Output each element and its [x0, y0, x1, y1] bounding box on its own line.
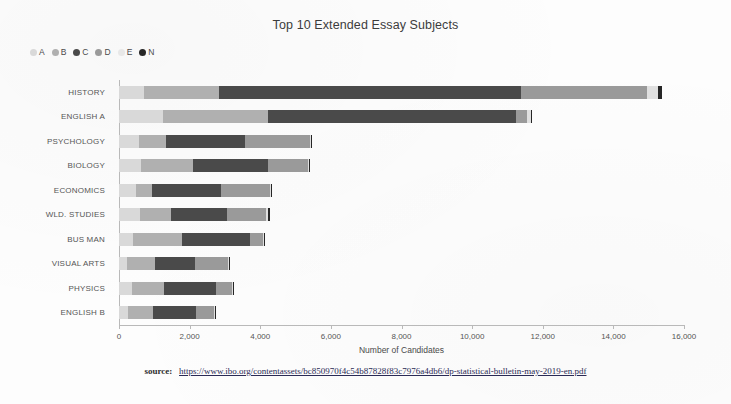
bar-segment-a[interactable]	[119, 208, 140, 221]
bar-row[interactable]	[119, 110, 532, 123]
bar-segment-c[interactable]	[171, 208, 227, 221]
bar-segment-a[interactable]	[119, 233, 133, 246]
legend-label: N	[148, 48, 154, 57]
bar-row[interactable]	[119, 184, 272, 197]
legend-swatch-icon	[95, 49, 102, 56]
y-axis-label-visual-arts: VISUAL ARTS	[52, 259, 105, 268]
legend-item-a[interactable]: A	[30, 48, 45, 57]
x-axis-tick	[331, 325, 332, 329]
bar-row[interactable]	[119, 86, 662, 99]
bar-segment-b[interactable]	[133, 233, 182, 246]
source-url-link[interactable]: https://www.ibo.org/contentassets/bc8509…	[179, 366, 586, 376]
bar-segment-n[interactable]	[658, 86, 662, 99]
bar-segment-n[interactable]	[233, 282, 234, 295]
bar-segment-d[interactable]	[195, 257, 228, 270]
bar-segment-a[interactable]	[119, 135, 139, 148]
bar-row[interactable]	[119, 159, 310, 172]
legend-label: C	[82, 48, 88, 57]
bar-segment-a[interactable]	[119, 159, 141, 172]
x-axis-tick	[543, 325, 544, 329]
bar-segment-b[interactable]	[128, 306, 153, 319]
bar-row[interactable]	[119, 208, 270, 221]
bar-segment-a[interactable]	[119, 257, 127, 270]
bar-segment-d[interactable]	[216, 282, 232, 295]
plot-area: 02,0004,0006,0008,00010,00012,00014,0001…	[119, 80, 684, 325]
x-axis-tick	[472, 325, 473, 329]
x-axis-tick-label: 12,000	[531, 332, 555, 341]
x-axis-tick	[402, 325, 403, 329]
bar-segment-n[interactable]	[271, 184, 272, 197]
bar-segment-b[interactable]	[139, 135, 166, 148]
bar-segment-d[interactable]	[521, 86, 647, 99]
y-axis-label-english-a: ENGLISH A	[61, 112, 105, 121]
bar-segment-b[interactable]	[136, 184, 152, 197]
bar-segment-n[interactable]	[531, 110, 533, 123]
legend-swatch-icon	[118, 49, 125, 56]
x-axis-tick-label: 0	[117, 332, 121, 341]
bar-segment-d[interactable]	[227, 208, 266, 221]
x-axis-tick	[119, 325, 120, 329]
bar-segment-a[interactable]	[119, 86, 144, 99]
x-axis-tick	[684, 325, 685, 329]
bar-row[interactable]	[119, 233, 265, 246]
bar-segment-n[interactable]	[311, 135, 312, 148]
bar-segment-b[interactable]	[163, 110, 268, 123]
bar-row[interactable]	[119, 257, 230, 270]
bar-segment-b[interactable]	[144, 86, 219, 99]
legend-label: E	[127, 48, 133, 57]
legend-item-b[interactable]: B	[52, 48, 67, 57]
x-axis-tick	[260, 325, 261, 329]
y-axis-label-biology: BIOLOGY	[68, 161, 105, 170]
bar-segment-n[interactable]	[309, 159, 310, 172]
bar-segment-c[interactable]	[166, 135, 245, 148]
bar-segment-d[interactable]	[196, 306, 214, 319]
bar-segment-c[interactable]	[155, 257, 195, 270]
legend-item-d[interactable]: D	[95, 48, 110, 57]
bar-segment-a[interactable]	[119, 110, 163, 123]
bar-segment-a[interactable]	[119, 184, 136, 197]
bar-segment-d[interactable]	[245, 135, 310, 148]
bar-segment-d[interactable]	[268, 159, 308, 172]
x-axis-title: Number of Candidates	[119, 345, 684, 355]
bar-segment-d[interactable]	[250, 233, 263, 246]
y-axis-label-psychology: PSYCHOLOGY	[47, 137, 105, 146]
bar-segment-c[interactable]	[153, 306, 196, 319]
legend-item-c[interactable]: C	[73, 48, 88, 57]
legend-item-e[interactable]: E	[118, 48, 133, 57]
x-axis-tick-label: 16,000	[672, 332, 696, 341]
legend-label: B	[61, 48, 67, 57]
bar-segment-c[interactable]	[193, 159, 268, 172]
bar-segment-b[interactable]	[132, 282, 164, 295]
bar-segment-n[interactable]	[264, 233, 265, 246]
x-axis-tick-label: 2,000	[180, 332, 200, 341]
bar-segment-c[interactable]	[164, 282, 216, 295]
bar-segment-c[interactable]	[182, 233, 250, 246]
chart-legend: ABCDEN	[30, 48, 154, 57]
chart-page: Top 10 Extended Essay Subjects ABCDEN HI…	[0, 0, 731, 404]
bar-segment-n[interactable]	[268, 208, 270, 221]
bar-segment-n[interactable]	[215, 306, 216, 319]
bar-row[interactable]	[119, 306, 216, 319]
x-axis-tick-label: 10,000	[460, 332, 484, 341]
legend-item-n[interactable]: N	[139, 48, 154, 57]
bar-row[interactable]	[119, 135, 312, 148]
y-axis-label-english-b: ENGLISH B	[61, 308, 105, 317]
legend-swatch-icon	[52, 49, 59, 56]
x-axis-tick-label: 8,000	[391, 332, 411, 341]
bar-segment-n[interactable]	[229, 257, 230, 270]
bar-row[interactable]	[119, 282, 234, 295]
bar-segment-d[interactable]	[516, 110, 527, 123]
legend-label: D	[104, 48, 110, 57]
legend-label: A	[39, 48, 45, 57]
bar-segment-b[interactable]	[127, 257, 155, 270]
bar-segment-d[interactable]	[221, 184, 270, 197]
bar-segment-b[interactable]	[140, 208, 171, 221]
bar-segment-c[interactable]	[268, 110, 516, 123]
bar-segment-c[interactable]	[152, 184, 221, 197]
bar-segment-b[interactable]	[141, 159, 193, 172]
y-axis-label-history: HISTORY	[68, 88, 105, 97]
bar-segment-a[interactable]	[119, 306, 128, 319]
bar-segment-c[interactable]	[219, 86, 521, 99]
bar-segment-e[interactable]	[647, 86, 658, 99]
bar-segment-a[interactable]	[119, 282, 132, 295]
